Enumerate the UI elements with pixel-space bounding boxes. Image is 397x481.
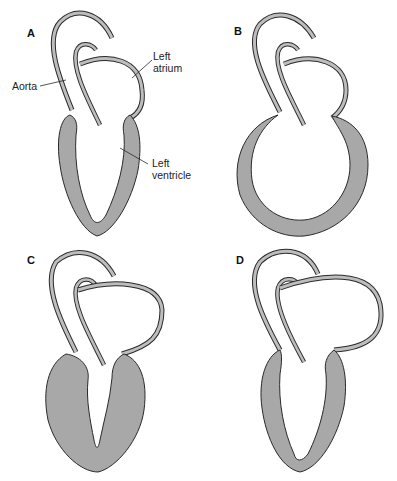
- label-left-atrium: Left atrium: [153, 50, 198, 74]
- panel-label-d: D: [236, 254, 244, 266]
- panel-label-c: C: [27, 254, 35, 266]
- panel-label-b: B: [234, 25, 242, 37]
- panel-d: D: [200, 240, 397, 480]
- label-left-ventricle-2: ventricle: [152, 169, 191, 181]
- heart-hypertrophied-diagram: [0, 240, 198, 481]
- heart-enlarged-atrium-diagram: [200, 240, 397, 481]
- panel-a: A Aorta Left atrium Left ventricle: [0, 0, 198, 240]
- heart-dilated-diagram: [200, 0, 397, 240]
- panel-label-a: A: [27, 27, 35, 39]
- label-aorta: Aorta: [12, 80, 37, 92]
- label-left-ventricle-1: Left: [152, 157, 170, 169]
- panel-b: B: [200, 0, 397, 240]
- panel-c: C: [0, 240, 198, 480]
